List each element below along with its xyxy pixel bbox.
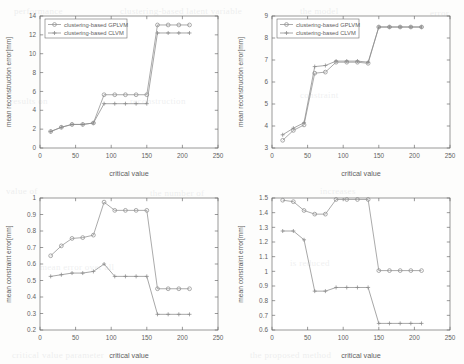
chart-top-right: 0501001502002503456789critical valuemean… bbox=[232, 0, 464, 182]
x-tick-label: 150 bbox=[373, 152, 384, 159]
y-tick-label: 0.9 bbox=[27, 211, 36, 218]
legend-label: clustering-based CLVM bbox=[296, 30, 356, 36]
y-tick-label: 0.8 bbox=[27, 227, 36, 234]
y-tick-label: 4 bbox=[32, 106, 36, 113]
x-tick-label: 200 bbox=[177, 152, 188, 159]
x-tick-label: 100 bbox=[106, 334, 117, 341]
legend-label: clustering-based CLVM bbox=[64, 30, 124, 36]
x-tick-label: 150 bbox=[373, 334, 384, 341]
x-tick-label: 200 bbox=[177, 334, 188, 341]
x-tick-label: 50 bbox=[304, 334, 312, 341]
chart-bottom-right: 0501001502002500.60.70.80.911.11.21.31.4… bbox=[232, 182, 464, 364]
chart-bottom-left: 0501001502002500.20.30.40.50.60.70.80.91… bbox=[0, 182, 232, 364]
x-tick-label: 150 bbox=[141, 152, 152, 159]
y-tick-label: 8 bbox=[264, 34, 268, 41]
x-tick-label: 50 bbox=[72, 334, 80, 341]
x-tick-label: 200 bbox=[409, 152, 420, 159]
subplot-top-left-canvas: 05010015020025002468101214critical value… bbox=[0, 0, 232, 182]
legend: clustering-based GPLVMclustering-based C… bbox=[45, 19, 128, 38]
y-tick-label: 1.2 bbox=[259, 238, 268, 245]
y-tick-label: 1.5 bbox=[259, 194, 268, 201]
y-tick-label: 1 bbox=[264, 268, 268, 275]
y-tick-label: 7 bbox=[264, 56, 268, 63]
y-axis-label: mean reconstruction error[mm] bbox=[237, 37, 245, 127]
y-axis-label: mean reconstruction error[mm] bbox=[5, 37, 13, 127]
x-tick-label: 250 bbox=[213, 152, 224, 159]
y-tick-label: 0.7 bbox=[27, 244, 36, 251]
x-tick-label: 150 bbox=[141, 334, 152, 341]
y-axis-label: mean constraint error[mm] bbox=[5, 225, 13, 302]
x-tick-label: 0 bbox=[270, 152, 274, 159]
y-tick-label: 0.4 bbox=[27, 293, 36, 300]
x-tick-label: 0 bbox=[270, 334, 274, 341]
y-tick-label: 0.6 bbox=[259, 326, 268, 333]
x-tick-label: 100 bbox=[338, 152, 349, 159]
x-axis-label: critical value bbox=[109, 169, 149, 178]
y-tick-label: 6 bbox=[32, 88, 36, 95]
subplot-bottom-right-canvas: 0501001502002500.60.70.80.911.11.21.31.4… bbox=[232, 182, 464, 364]
x-tick-label: 50 bbox=[304, 152, 312, 159]
x-tick-label: 0 bbox=[38, 152, 42, 159]
plot-frame bbox=[40, 198, 218, 330]
y-tick-label: 0.3 bbox=[27, 310, 36, 317]
figure-canvas: 05010015020025002468101214critical value… bbox=[0, 0, 464, 364]
subplot-top-left: 05010015020025002468101214critical value… bbox=[0, 0, 232, 182]
x-tick-label: 250 bbox=[213, 334, 224, 341]
x-tick-label: 200 bbox=[409, 334, 420, 341]
x-tick-label: 50 bbox=[72, 152, 80, 159]
x-tick-label: 0 bbox=[38, 334, 42, 341]
y-tick-label: 9 bbox=[264, 12, 268, 19]
x-tick-label: 250 bbox=[445, 334, 456, 341]
x-axis-label: critical value bbox=[341, 169, 381, 178]
subplot-top-right-canvas: 0501001502002503456789critical valuemean… bbox=[232, 0, 464, 182]
y-tick-label: 0.9 bbox=[259, 282, 268, 289]
y-tick-label: 0.2 bbox=[27, 326, 36, 333]
x-tick-label: 100 bbox=[106, 152, 117, 159]
y-tick-label: 0.8 bbox=[259, 297, 268, 304]
subplot-bottom-right: 0501001502002500.60.70.80.911.11.21.31.4… bbox=[232, 182, 464, 364]
legend-label: clustering-based GPLVM bbox=[296, 22, 360, 28]
subplot-bottom-left: 0501001502002500.20.30.40.50.60.70.80.91… bbox=[0, 182, 232, 364]
y-tick-label: 0 bbox=[32, 144, 36, 151]
legend: clustering-based GPLVMclustering-based C… bbox=[277, 19, 360, 38]
y-tick-label: 1.1 bbox=[259, 253, 268, 260]
x-tick-label: 100 bbox=[338, 334, 349, 341]
y-tick-label: 8 bbox=[32, 69, 36, 76]
y-tick-label: 1.3 bbox=[259, 224, 268, 231]
y-tick-label: 0.7 bbox=[259, 312, 268, 319]
y-tick-label: 2 bbox=[32, 125, 36, 132]
y-tick-label: 1.4 bbox=[259, 209, 268, 216]
y-tick-label: 5 bbox=[264, 100, 268, 107]
x-axis-label: critical value bbox=[109, 351, 149, 360]
x-tick-label: 250 bbox=[445, 152, 456, 159]
chart-top-left: 05010015020025002468101214critical value… bbox=[0, 0, 232, 182]
y-tick-label: 0.6 bbox=[27, 260, 36, 267]
x-axis-label: critical value bbox=[341, 351, 381, 360]
y-tick-label: 4 bbox=[264, 122, 268, 129]
y-tick-label: 0.5 bbox=[27, 277, 36, 284]
legend-label: clustering-based GPLVM bbox=[64, 22, 128, 28]
subplot-top-right: 0501001502002503456789critical valuemean… bbox=[232, 0, 464, 182]
y-tick-label: 1 bbox=[32, 194, 36, 201]
subplot-bottom-left-canvas: 0501001502002500.20.30.40.50.60.70.80.91… bbox=[0, 182, 232, 364]
y-tick-label: 6 bbox=[264, 78, 268, 85]
y-tick-label: 14 bbox=[29, 12, 37, 19]
plot-frame bbox=[272, 198, 450, 330]
y-tick-label: 10 bbox=[29, 50, 37, 57]
y-axis-label: mean constraint error[mm] bbox=[237, 225, 245, 302]
y-tick-label: 3 bbox=[264, 144, 268, 151]
y-tick-label: 12 bbox=[29, 31, 37, 38]
